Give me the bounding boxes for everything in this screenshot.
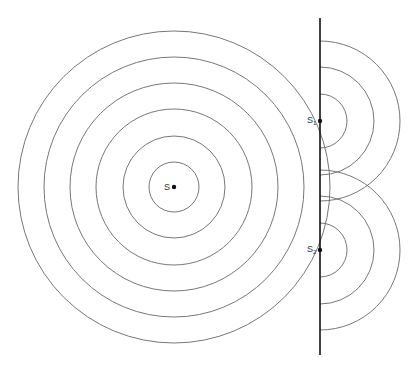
slit1-wavefront-3 — [320, 41, 400, 201]
slit-label-2: S2 — [307, 244, 317, 255]
double-slit-diagram: S S1S2 — [0, 0, 414, 368]
slit-label-1: S1 — [307, 115, 317, 126]
slit1-wavefront-1 — [320, 94, 347, 148]
source-label: S — [164, 182, 170, 192]
slit-wavefronts — [320, 41, 400, 330]
slit2-wavefront-3 — [320, 170, 400, 330]
slit-point-2 — [318, 248, 322, 252]
slit-point-1 — [318, 119, 322, 123]
source-point — [172, 185, 176, 189]
